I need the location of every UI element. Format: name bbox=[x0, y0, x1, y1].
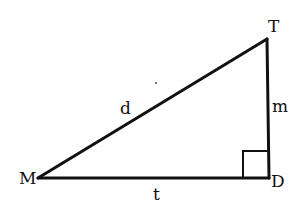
side-vertical-TD bbox=[267, 39, 269, 178]
triangle-figure: T M D d m t bbox=[0, 0, 304, 210]
side-label-d: d bbox=[120, 98, 131, 118]
side-label-m: m bbox=[272, 96, 288, 116]
vertex-label-M: M bbox=[19, 168, 36, 188]
stray-dot bbox=[155, 82, 157, 84]
vertex-label-T: T bbox=[268, 16, 280, 36]
right-angle-marker bbox=[243, 151, 268, 177]
side-hypotenuse-MT bbox=[38, 39, 267, 178]
triangle bbox=[38, 39, 269, 178]
labels: T M D d m t bbox=[19, 16, 288, 204]
side-label-t: t bbox=[153, 184, 160, 204]
vertex-label-D: D bbox=[271, 171, 285, 191]
diagram-canvas: T M D d m t bbox=[0, 0, 304, 210]
